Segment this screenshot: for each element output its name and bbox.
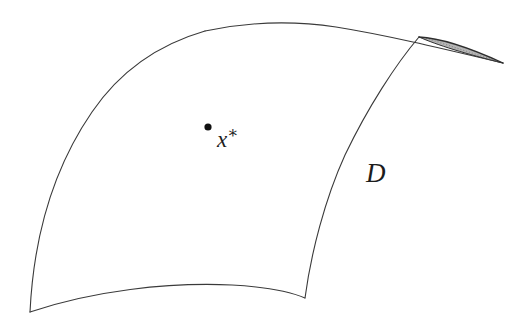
point-label-base: x — [217, 127, 227, 152]
surface-patch-diagram — [0, 0, 524, 326]
interior-point-marker — [204, 123, 211, 130]
domain-label-d: D — [366, 160, 386, 187]
point-label-superscript: ∗ — [227, 123, 238, 142]
figure-canvas: x∗ D — [0, 0, 524, 326]
point-label-x-star: x∗ — [217, 125, 238, 151]
